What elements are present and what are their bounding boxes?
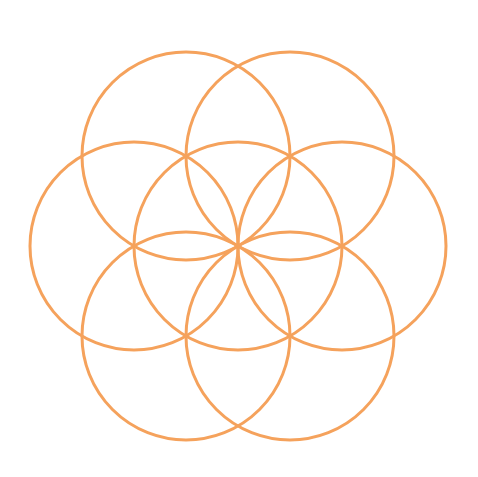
seed-of-life-diagram xyxy=(0,0,478,477)
